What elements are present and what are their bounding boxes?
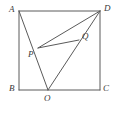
geometry-canvas xyxy=(0,0,118,117)
point-label-P: P xyxy=(28,50,34,59)
point-label-B: B xyxy=(9,84,15,93)
point-label-Q: Q xyxy=(82,32,89,41)
geometry-figure: ADBCOPQ xyxy=(0,0,118,117)
point-label-O: O xyxy=(44,94,51,103)
point-label-D: D xyxy=(104,4,111,13)
point-label-C: C xyxy=(103,84,109,93)
segment-OD xyxy=(48,11,100,90)
point-label-A: A xyxy=(9,5,15,14)
